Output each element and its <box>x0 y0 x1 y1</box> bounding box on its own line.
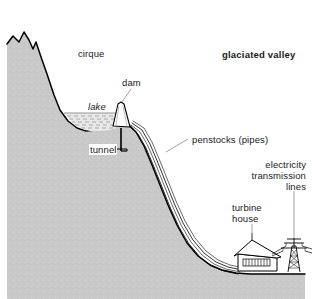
glaciated-valley-diagram: cirque glaciated valley dam lake tunnel … <box>0 0 312 299</box>
label-dam: dam <box>122 77 141 88</box>
label-cirque: cirque <box>78 48 104 59</box>
label-turbine-line2: house <box>232 213 258 224</box>
label-lake: lake <box>88 101 106 112</box>
diagram-canvas <box>0 0 312 299</box>
turbine-house <box>234 233 281 271</box>
label-electricity-line3: lines <box>216 181 306 192</box>
label-electricity-line2: transmission <box>216 170 306 181</box>
dam-structure <box>113 102 130 127</box>
label-turbine-line1: turbine <box>232 202 262 213</box>
label-penstocks: penstocks (pipes) <box>192 134 268 145</box>
penstocks-leader <box>166 139 188 152</box>
dam-leader <box>122 89 131 102</box>
label-electricity-line1: electricity <box>216 159 306 170</box>
label-glaciated-valley: glaciated valley <box>222 49 295 60</box>
label-tunnel: tunnel <box>89 144 117 155</box>
